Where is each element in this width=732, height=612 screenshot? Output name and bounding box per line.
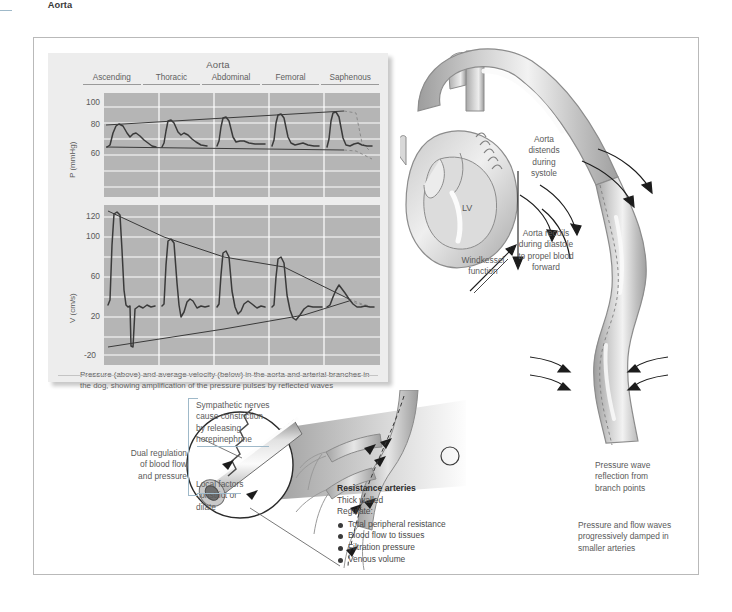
chart-caption: Pressure (above) and average velocity (b… (80, 369, 380, 391)
windkessel-line-2: function (440, 266, 526, 277)
dual-line-1: Dual regulation (95, 448, 187, 459)
list-item: Total peripheral resistance (337, 519, 497, 531)
label-waves-damped: Pressure and flow waves progressively da… (578, 520, 708, 554)
segment-label-thoracic: Thoracic (143, 73, 201, 85)
local-line-3: dilate (196, 502, 292, 513)
damped-line-3: smaller arteries (578, 543, 708, 554)
velocity-tick-120: 120 (74, 211, 100, 221)
resistance-heading: Resistance arteries (337, 483, 497, 495)
velocity-tick-20: 20 (74, 311, 100, 321)
list-item: Blood flow to tissues (337, 530, 497, 542)
sympathetic-line-2: cause constriction (196, 411, 312, 422)
segment-headers: Ascending Thoracic Abdominal Femoral Sap… (82, 73, 380, 85)
sympathetic-leader (197, 446, 269, 447)
local-factors-leader (197, 493, 241, 494)
damped-line-1: Pressure and flow waves (578, 520, 708, 531)
pressure-tick-80: 80 (74, 119, 100, 129)
segment-label-femoral: Femoral (262, 73, 320, 85)
list-item: Venous volume (337, 554, 497, 566)
sympathetic-line-1: Sympathetic nerves (196, 400, 312, 411)
local-line-1: Local factors (196, 479, 292, 490)
reflection-line-3: branch points (595, 483, 705, 494)
velocity-tick-neg20: -20 (70, 350, 96, 360)
velocity-plot (104, 205, 380, 365)
damped-line-2: progressively damped in (578, 531, 708, 542)
dual-line-3: and pressure (95, 471, 187, 482)
pressure-tick-100: 100 (74, 97, 100, 107)
chart-card: Aorta Ascending Thoracic Abdominal Femor… (48, 53, 388, 382)
dual-regulation-bracket (188, 398, 198, 496)
reflection-line-2: reflection from (595, 471, 705, 482)
windkessel-line-1: Windkessel (440, 255, 526, 266)
dual-regulation-leader (0, 10, 12, 11)
chart-title: Aorta (48, 59, 388, 70)
segment-label-ascending: Ascending (83, 73, 141, 85)
distends-line-1: Aorta (505, 134, 583, 145)
velocity-tick-100: 100 (74, 231, 100, 241)
recoils-line-1: Aorta recoils (498, 228, 594, 239)
resistance-subtitle: Thick walled (337, 495, 497, 507)
distends-line-3: during (505, 157, 583, 168)
velocity-tick-60: 60 (74, 271, 100, 281)
list-item: Filtration pressure (337, 542, 497, 554)
segment-label-saphenous: Saphenous (321, 73, 379, 85)
dual-line-2: of blood flow (95, 459, 187, 470)
label-windkessel-function: Windkessel function (440, 255, 526, 278)
resistance-arteries-block: Resistance arteries Thick walled Regulat… (337, 483, 497, 565)
resistance-regulate-label: Regulate: (337, 506, 497, 518)
pressure-plot (104, 93, 380, 197)
label-local-factors: Local factors constrict or dilate (196, 479, 292, 513)
sympathetic-line-4: norepinephrine (196, 434, 312, 445)
pressure-tick-60: 60 (74, 148, 100, 158)
sympathetic-line-3: by releasing (196, 423, 312, 434)
segment-label-abdominal: Abdominal (202, 73, 260, 85)
card-bottom-rule (58, 375, 378, 376)
label-dual-regulation: Dual regulation of blood flow and pressu… (95, 448, 187, 482)
label-pressure-wave-reflection: Pressure wave reflection from branch poi… (595, 460, 705, 494)
label-aorta-title: Aorta (0, 0, 120, 10)
recoils-line-2: during diastole (498, 239, 594, 250)
label-sympathetic-nerves: Sympathetic nerves cause constriction by… (196, 400, 312, 446)
distends-line-2: distends (505, 145, 583, 156)
reflection-line-1: Pressure wave (595, 460, 705, 471)
resistance-list: Total peripheral resistance Blood flow t… (337, 519, 497, 565)
lv-label: LV (462, 203, 472, 213)
label-aorta-distends: Aorta distends during systole (505, 134, 583, 180)
distends-line-4: systole (505, 168, 583, 179)
